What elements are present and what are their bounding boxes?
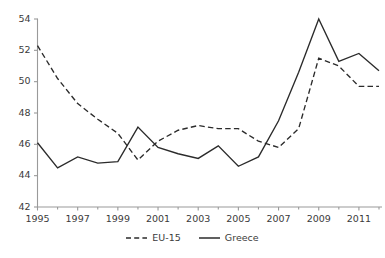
line-chart: 42444648505254 1995199719992001200320052… — [0, 0, 385, 258]
x-tick-label: 2009 — [299, 213, 339, 224]
y-tick-label: 54 — [0, 13, 31, 24]
x-tick-label: 1995 — [18, 213, 58, 224]
series-line-greece — [38, 19, 380, 168]
legend-swatch-dashed-icon — [126, 233, 147, 243]
x-tick-label: 2011 — [339, 213, 379, 224]
x-tick-label: 1997 — [58, 213, 98, 224]
y-tick-label: 44 — [0, 169, 31, 180]
legend-label: Greece — [225, 232, 259, 243]
x-tick-label: 1999 — [98, 213, 138, 224]
y-tick-label: 46 — [0, 138, 31, 149]
y-tick-label: 50 — [0, 75, 31, 86]
legend-label: EU-15 — [152, 232, 180, 243]
y-tick-label: 42 — [0, 201, 31, 212]
y-tick-label: 52 — [0, 44, 31, 55]
x-tick-label: 2003 — [178, 213, 218, 224]
x-tick-label: 2001 — [138, 213, 178, 224]
legend-item-eu-15[interactable]: EU-15 — [126, 232, 180, 243]
series-line-eu-15 — [38, 46, 380, 160]
legend-swatch-solid-icon — [199, 233, 220, 243]
y-tick-label: 48 — [0, 107, 31, 118]
x-tick-label: 2005 — [218, 213, 258, 224]
legend-item-greece[interactable]: Greece — [199, 232, 259, 243]
x-tick-label: 2007 — [259, 213, 299, 224]
chart-legend: EU-15Greece — [0, 232, 385, 243]
